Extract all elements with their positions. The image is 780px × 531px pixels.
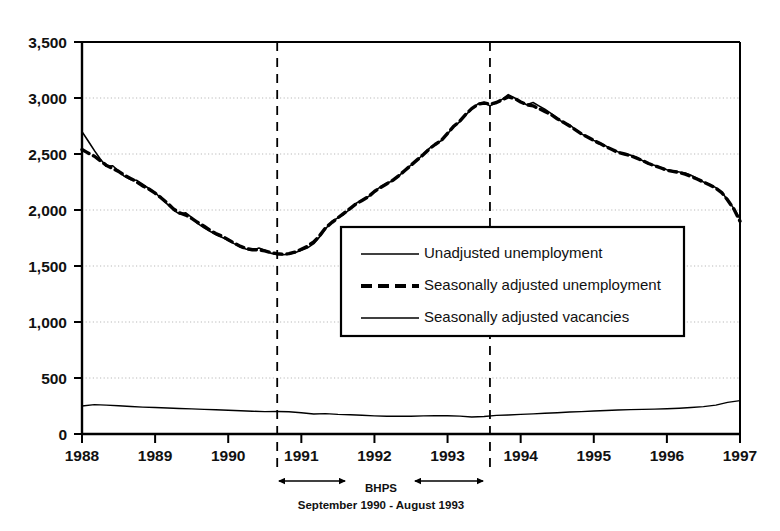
x-axis-tick-labels: 1988198919901991199219931994199519961997	[65, 447, 757, 464]
y-axis-tick-label: 3,500	[28, 34, 67, 51]
bhps-annotation: BHPS September 1990 - August 1993	[279, 481, 483, 511]
legend-label: Seasonally adjusted vacancies	[424, 308, 629, 325]
y-axis-tick-label: 500	[41, 370, 67, 387]
x-axis-tick-label: 1989	[138, 447, 173, 464]
legend-box: Unadjusted unemploymentSeasonally adjust…	[341, 227, 684, 336]
x-axis-tick-label: 1995	[577, 447, 612, 464]
y-axis-tick-label: 1,500	[28, 258, 67, 275]
y-axis-tick-label: 3,000	[28, 90, 67, 107]
y-axis-tick-label: 2,500	[28, 146, 67, 163]
x-axis-tick-label: 1994	[503, 447, 538, 464]
x-axis-tick-label: 1996	[650, 447, 685, 464]
x-axis-tick-label: 1992	[357, 447, 391, 464]
x-axis-tick-label: 1991	[284, 447, 319, 464]
x-axis-tick-label: 1993	[430, 447, 465, 464]
x-axis-tick-label: 1997	[723, 447, 757, 464]
y-axis-tick-labels: 05001,0001,5002,0002,5003,0003,500	[28, 34, 67, 443]
y-axis-tick-label: 2,000	[28, 202, 67, 219]
legend-label: Seasonally adjusted unemployment	[424, 276, 662, 293]
series-line	[82, 401, 740, 417]
bhps-sublabel: September 1990 - August 1993	[298, 499, 464, 511]
x-axis-tick-label: 1990	[211, 447, 245, 464]
chart-figure: 05001,0001,5002,0002,5003,0003,500 19881…	[0, 0, 780, 531]
y-axis-tick-label: 0	[58, 426, 67, 443]
line-chart-svg: 05001,0001,5002,0002,5003,0003,500 19881…	[0, 0, 780, 531]
x-axis-tick-label: 1988	[65, 447, 100, 464]
y-axis-tick-label: 1,000	[28, 314, 67, 331]
legend-label: Unadjusted unemployment	[424, 244, 603, 261]
bhps-label: BHPS	[365, 482, 397, 494]
x-axis-ticks	[82, 434, 740, 443]
